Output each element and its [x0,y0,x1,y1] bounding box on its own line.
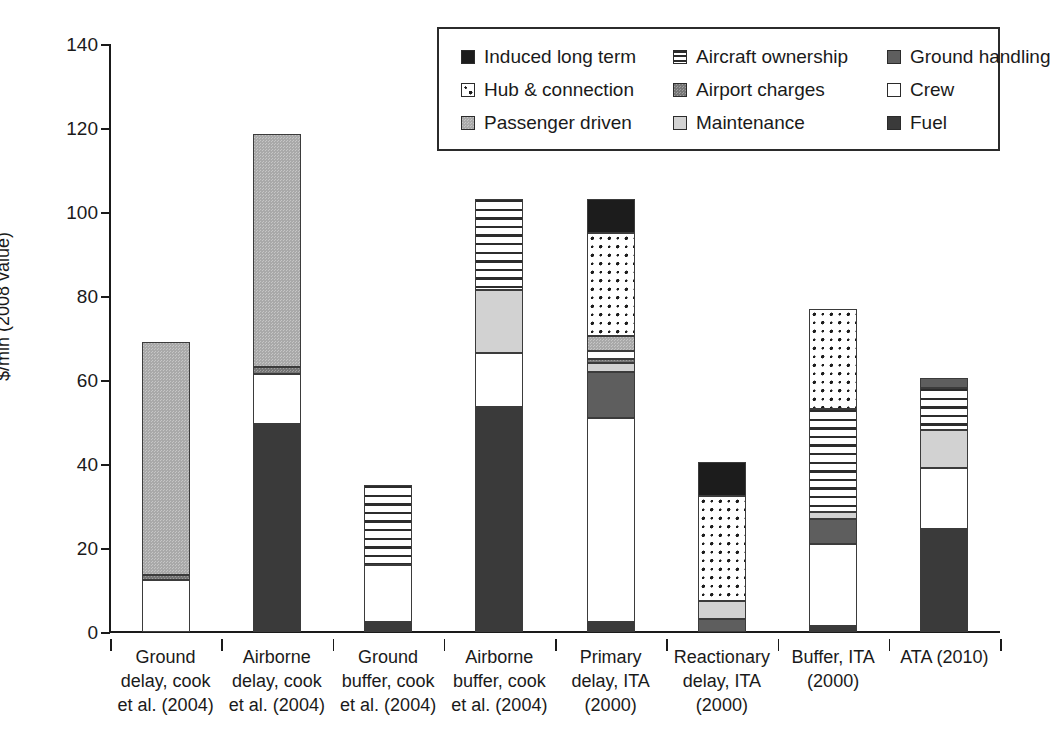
swatch-crew-icon [887,83,901,97]
bar-segment-fuel [809,626,857,632]
x-axis-label-line: delay, ITA [666,669,777,693]
swatch-induced-long-term-icon [461,50,475,64]
y-tick-mark [101,212,110,214]
bar-segment-fuel [920,529,968,632]
y-tick-mark [101,296,110,298]
legend-label: Hub & connection [484,79,634,101]
legend-label: Fuel [910,112,947,134]
bar-segment-maintenance [698,601,746,620]
bar-segment-aircraft-ownership [364,485,412,565]
y-tick-label: 100 [44,203,98,222]
y-tick-label: 60 [44,371,98,390]
legend-item[interactable]: Ground handling [887,46,888,68]
swatch-ground-handling-icon [887,50,901,64]
bar-segment-crew [142,580,190,633]
bar-group [253,44,301,632]
x-axis-label: ATA (2010) [889,645,1000,669]
bar-segment-maintenance [920,430,968,468]
bar-segment-induced-long-term [698,462,746,496]
legend-label: Airport charges [696,79,825,101]
bar-segment-fuel [475,407,523,632]
y-tick-label: 140 [44,35,98,54]
legend-row: Induced long termAircraft ownershipGroun… [461,40,984,73]
x-axis-label-line: Buffer, ITA [778,645,889,669]
x-axis-label: Grounddelay, cooket al. (2004) [110,645,221,717]
y-tick-label: 0 [44,623,98,642]
bar-segment-airport-charges [253,367,301,373]
bar-segment-aircraft-ownership [475,199,523,289]
bar-segment-passenger-driven [253,134,301,367]
legend-item[interactable]: Crew [887,79,888,101]
x-axis-label-line: delay, ITA [555,669,666,693]
stacked-bar[interactable] [364,44,412,632]
x-axis-label-line: Reactionary [666,645,777,669]
x-axis-label-line: (2000) [555,693,666,717]
x-axis-label: Airbornebuffer, cooket al. (2004) [444,645,555,717]
bar-segment-passenger-driven [587,336,635,351]
legend-item[interactable]: Maintenance [673,112,887,134]
x-axis-label-line: Ground [110,645,221,669]
x-axis-label: Groundbuffer, cooket al. (2004) [333,645,444,717]
x-axis-label-line: buffer, cook [444,669,555,693]
stacked-bar[interactable] [142,44,190,632]
bar-segment-airport-charges [142,575,190,579]
bar-segment-induced-long-term [587,199,635,233]
bar-segment-hub-and-connection [587,233,635,336]
x-axis-label-line: buffer, cook [333,669,444,693]
legend-item[interactable]: Hub & connection [461,79,673,101]
x-axis-label-line: (2000) [778,669,889,693]
x-axis-label: Reactionarydelay, ITA(2000) [666,645,777,717]
bar-segment-crew [809,544,857,626]
swatch-aircraft-ownership-icon [673,50,687,64]
bar-segment-airport-charges [587,359,635,363]
y-tick-mark [101,632,110,634]
y-tick-label: 120 [44,119,98,138]
stacked-bar[interactable] [253,44,301,632]
x-axis-labels: Grounddelay, cooket al. (2004)Airbornede… [110,639,1000,739]
x-axis-label-line: et al. (2004) [221,693,332,717]
x-axis-label-line: Airborne [444,645,555,669]
legend-label: Passenger driven [484,112,632,134]
bar-segment-passenger-driven [142,342,190,575]
swatch-hub-connection-icon [461,83,475,97]
bar-segment-aircraft-ownership [920,388,968,430]
legend-label: Crew [910,79,954,101]
legend-item[interactable]: Aircraft ownership [673,46,887,68]
bar-segment-maintenance [809,512,857,518]
legend-item[interactable]: Fuel [887,112,888,134]
y-tick-mark [101,44,110,46]
legend-item[interactable]: Induced long term [461,46,673,68]
swatch-fuel-icon [887,116,901,130]
x-axis-label: Airbornedelay, cooket al. (2004) [221,645,332,717]
bar-segment-maintenance [475,290,523,353]
x-axis-label-line: et al. (2004) [110,693,221,717]
x-axis-label-line: Primary [555,645,666,669]
bar-segment-fuel [587,622,635,633]
x-axis-label-line: delay, cook [110,669,221,693]
bar-segment-fuel [253,424,301,632]
legend-label: Maintenance [696,112,805,134]
y-tick-label: 40 [44,455,98,474]
legend-item[interactable]: Airport charges [673,79,887,101]
y-tick-mark [101,548,110,550]
legend-item[interactable]: Passenger driven [461,112,673,134]
swatch-passenger-driven-icon [461,116,475,130]
bar-segment-crew [587,351,635,359]
y-tick-mark [101,464,110,466]
x-axis-label-line: delay, cook [221,669,332,693]
bar-segment-aircraft-ownership [809,409,857,512]
swatch-maintenance-icon [673,116,687,130]
y-axis-title: $/min (2008 value) [0,77,14,537]
y-tick-label: 80 [44,287,98,306]
x-axis-tick [1000,639,1002,651]
x-axis-label-line: ATA (2010) [889,645,1000,669]
x-axis-label-line: Ground [333,645,444,669]
bar-group [142,44,190,632]
bar-segment-crew [364,565,412,622]
y-tick-label: 20 [44,539,98,558]
legend-label: Induced long term [484,46,636,68]
bar-segment-crew [475,353,523,408]
x-axis-label: Primarydelay, ITA(2000) [555,645,666,717]
bar-segment-fuel [364,622,412,633]
